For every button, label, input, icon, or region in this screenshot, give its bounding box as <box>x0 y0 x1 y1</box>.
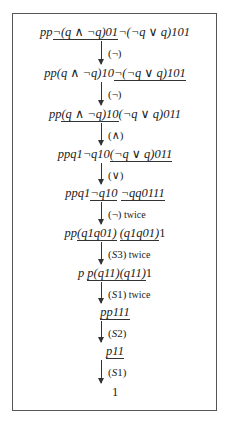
rule-label: (¬) <box>108 88 122 100</box>
rule-label: (S1) <box>108 366 126 378</box>
reduction-arrow-icon <box>101 282 102 303</box>
redex-underlined: (q1q01) <box>77 226 117 241</box>
rule-name: (∧) <box>108 129 123 141</box>
formula-segment: ppq1 <box>65 186 90 200</box>
reduction-arrow-icon <box>101 163 102 184</box>
formula-line: pp¬(q ∧ ¬q)01¬(¬q ∨ q)101 <box>0 25 230 39</box>
rule-repeat: twice <box>122 209 146 220</box>
rule-label: (¬) twice <box>108 208 146 221</box>
reduction-arrow-icon <box>101 82 102 105</box>
rule-label: (∧) <box>108 129 123 141</box>
formula-line: ppq1¬q10(¬q ∨ q)011 <box>0 147 230 161</box>
rule-label: (¬) <box>108 47 122 59</box>
redex-underlined: ¬(¬q ∨ q)101 <box>114 66 186 81</box>
formula-line: pp(q ∧ ¬q)10(¬q ∨ q)011 <box>0 107 230 121</box>
redex-underlined: ¬(q ∧ ¬q)01 <box>53 25 119 40</box>
formula-segment: 1 <box>146 266 152 280</box>
formula-segment: pp <box>49 107 62 121</box>
formula-line: pp(q ∧ ¬q)10¬(¬q ∨ q)101 <box>0 66 230 80</box>
rule-label: (S1) twice <box>108 288 151 301</box>
formula-line: ppq1¬q10 ¬qq0111 <box>0 186 230 200</box>
rule-name: (∨) <box>108 169 123 181</box>
formula-segment: 1 <box>159 226 165 240</box>
redex-underlined: (q1q01) <box>120 226 160 241</box>
redex-underlined: p(q11)(q11) <box>87 266 146 281</box>
reduction-arrow-icon <box>101 242 102 264</box>
formula-segment: pp <box>40 25 53 39</box>
rule-name: (S3) <box>108 248 126 260</box>
redex-underlined: (q ∧ ¬q)10 <box>61 107 118 122</box>
rule-label: (S3) twice <box>108 248 151 261</box>
formula-line: pp111 <box>0 305 230 319</box>
reduction-arrow-icon <box>101 321 102 342</box>
redex-underlined: p11 <box>106 344 124 359</box>
redex-underlined: pp111 <box>100 305 129 320</box>
rule-name: (¬) <box>108 208 122 220</box>
reduction-arrow-icon <box>101 202 102 224</box>
formula-segment: pp(q ∧ ¬q)10 <box>44 66 114 80</box>
rule-name: (¬) <box>108 88 122 100</box>
rule-label: (S2) <box>108 327 126 339</box>
formula-segment: p <box>78 266 87 280</box>
rule-name: (S2) <box>108 327 126 339</box>
reduction-arrow-icon <box>101 123 102 145</box>
formula-segment: ppq1¬q10 <box>58 147 110 161</box>
redex-underlined: ¬qq0111 <box>121 186 165 201</box>
formula-segment: 1 <box>112 385 118 399</box>
rule-name: (¬) <box>108 47 122 59</box>
formula-line: p11 <box>0 344 230 358</box>
formula-line: 1 <box>0 385 230 399</box>
formula-line: pp(q1q01) (q1q01)1 <box>0 226 230 240</box>
rule-name: (S1) <box>108 288 126 300</box>
reduction-arrow-icon <box>101 41 102 64</box>
formula-segment: (¬q ∨ q)011 <box>119 107 181 121</box>
rule-repeat: twice <box>126 249 150 260</box>
rule-repeat: twice <box>126 289 150 300</box>
formula-line: p p(q11)(q11)1 <box>0 266 230 280</box>
formula-segment: pp <box>64 226 77 240</box>
redex-underlined: (¬q ∨ q)011 <box>110 147 172 162</box>
rule-name: (S1) <box>108 366 126 378</box>
rule-label: (∨) <box>108 169 123 181</box>
reduction-arrow-icon <box>101 360 102 383</box>
redex-underlined: ¬q10 <box>90 186 117 201</box>
formula-segment: ¬(¬q ∨ q)101 <box>118 25 190 39</box>
